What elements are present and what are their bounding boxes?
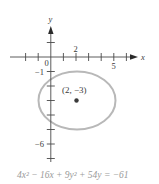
x-tick-label-5: 5 [112,61,116,71]
y-axis-label: y [48,14,53,24]
equation-caption: 4x² − 16x + 9y² + 54y = −61 [17,170,129,180]
y-tick-label-neg6: −6 [35,139,44,149]
x-tick-label-2: 2 [74,44,78,54]
y-axis [47,31,55,162]
x-axis-arrow-icon [130,54,138,59]
y-tick-label-neg1: −1 [35,67,44,77]
x-axis-label: x [140,52,145,62]
origin-label: 0 [45,58,49,68]
center-point [74,98,78,102]
y-axis-arrow-icon [48,26,53,34]
center-point-label: (2, −3) [62,85,87,95]
ellipse-graph: x y 2 5 0 −1 −6 (2, −3) 4x² − 16x + 9y² … [0,0,159,184]
